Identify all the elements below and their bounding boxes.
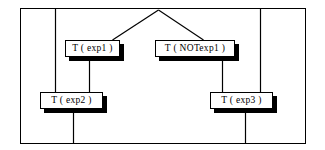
node-notexp1-label: T ( NOTexp1 ): [164, 44, 226, 54]
node-notexp1[interactable]: T ( NOTexp1 ): [155, 40, 235, 57]
node-exp3-label: T ( exp3 ): [220, 96, 263, 106]
node-exp2-label: T ( exp2 ): [50, 96, 93, 106]
diagram-canvas: T ( exp1 )T ( NOTexp1 )T ( exp2 )T ( exp…: [0, 0, 325, 150]
outer-frame: [21, 9, 306, 144]
diagram-line-layer: [0, 0, 325, 150]
node-exp1-label: T ( exp1 ): [71, 44, 114, 54]
edge-group: [56, 8, 261, 143]
node-exp3[interactable]: T ( exp3 ): [210, 92, 273, 109]
edge-apex-to-notexp1: [159, 10, 204, 40]
node-exp1[interactable]: T ( exp1 ): [65, 40, 120, 57]
edge-apex-to-exp1: [113, 10, 159, 40]
node-exp2[interactable]: T ( exp2 ): [40, 92, 103, 109]
